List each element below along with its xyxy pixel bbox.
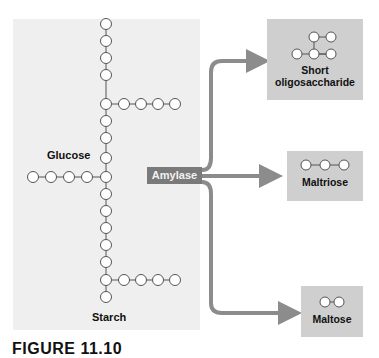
figure-caption: FIGURE 11.10 [12, 340, 122, 358]
starch-label: Starch [92, 311, 126, 323]
oligosaccharide-label-line1: Short [267, 64, 363, 76]
product-box-maltose [301, 286, 363, 337]
maltose-label: Maltose [301, 313, 363, 325]
oligosaccharide-label: Short oligosaccharide [267, 64, 363, 88]
amylase-label: Amylase [147, 167, 202, 184]
oligosaccharide-label-line2: oligosaccharide [267, 76, 363, 88]
glucose-label: Glucose [47, 149, 90, 161]
maltriose-label: Maltriose [287, 176, 363, 188]
